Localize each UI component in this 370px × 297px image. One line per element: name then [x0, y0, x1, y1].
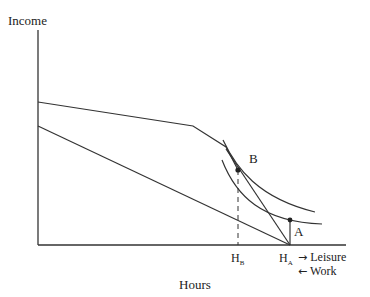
tick-hb-main: H	[231, 251, 240, 265]
point-b-marker	[235, 167, 240, 172]
point-a-marker	[288, 218, 293, 223]
point-a-label: A	[294, 225, 303, 238]
tick-hb-sub: B	[240, 259, 245, 267]
leisure-direction: → Leisure	[298, 251, 346, 263]
budget-line-lower	[38, 126, 290, 245]
left-arrow-icon: ←	[298, 265, 307, 278]
tick-label-hb: HB	[231, 252, 244, 267]
work-label: Work	[310, 264, 336, 278]
budget-line-steep	[226, 149, 290, 245]
budget-line-upper-kinked	[38, 102, 238, 170]
tick-ha-sub: A	[288, 259, 293, 267]
indifference-curve-upper	[223, 140, 315, 212]
right-arrow-icon: →	[298, 251, 307, 264]
leisure-label: Leisure	[310, 250, 346, 264]
y-axis-label: Income	[8, 14, 47, 27]
work-direction: ← Work	[298, 265, 336, 277]
tick-ha-main: H	[279, 251, 288, 265]
tick-label-ha: HA	[279, 252, 293, 267]
x-axis-label: Hours	[179, 278, 211, 291]
point-b-label: B	[249, 152, 258, 165]
